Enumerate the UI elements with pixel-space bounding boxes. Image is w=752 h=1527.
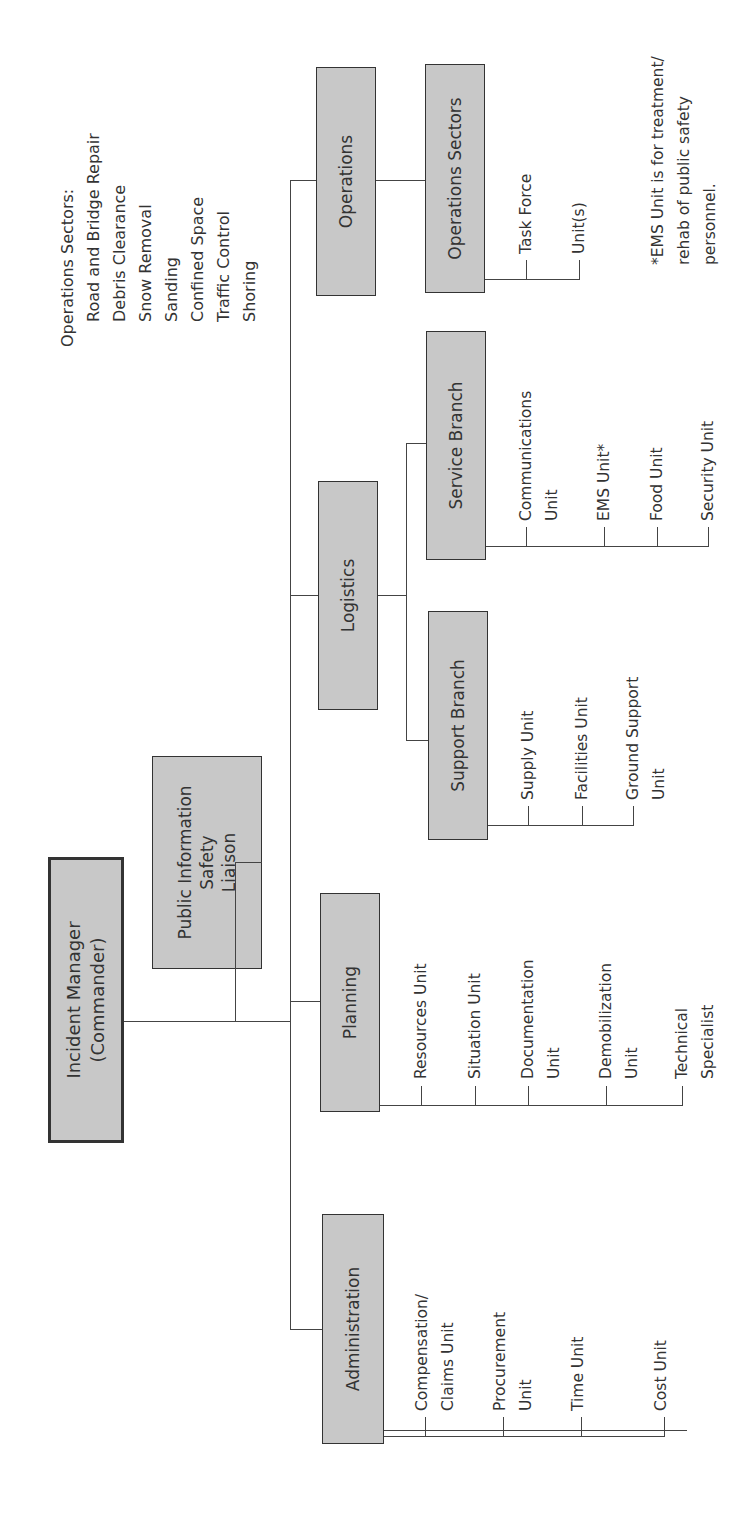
unit-tick [581, 1417, 582, 1437]
unit-tick [664, 1417, 665, 1437]
unit-tick [579, 260, 580, 280]
unit-tick [604, 527, 605, 547]
planning-unit: Resources Unit [408, 963, 434, 1079]
unit-tick [425, 1417, 426, 1437]
admin-unit: Cost Unit [648, 1340, 674, 1411]
unit-tick [526, 260, 527, 280]
service-unit: EMS Unit* [591, 444, 617, 521]
ops-unit: Task Force [513, 174, 539, 254]
unit-tick [582, 806, 583, 826]
admin-unit: Time Unit [565, 1337, 591, 1411]
unit-tick [606, 1086, 607, 1106]
unit-tick [708, 527, 709, 547]
admin-unit: Procurement Unit [487, 1312, 539, 1411]
planning-units-bus [380, 1105, 683, 1106]
admin-unit: Compensation/ Claims Unit [409, 1294, 461, 1411]
ops-units-bus [485, 279, 579, 280]
unit-tick [682, 1086, 683, 1106]
service-units-bus [486, 546, 708, 547]
unit-tick [528, 806, 529, 826]
unit-tick [475, 1086, 476, 1106]
ems-footnote: *EMS Unit is for treatment/ rehab of pub… [645, 56, 723, 265]
support-unit: Facilities Unit [569, 697, 595, 800]
service-unit: Communications Unit [513, 391, 565, 521]
unit-tick [421, 1086, 422, 1106]
planning-unit: Situation Unit [462, 973, 488, 1079]
support-units-bus [488, 825, 633, 826]
planning-unit: Demobilization Unit [593, 963, 645, 1079]
ops-unit: Unit(s) [566, 202, 592, 254]
planning-unit: Technical Specialist [669, 1005, 721, 1079]
unit-tick [503, 1417, 504, 1437]
support-unit: Ground Support Unit [620, 677, 672, 800]
unit-tick [528, 1086, 529, 1106]
unit-tick [657, 527, 658, 547]
service-unit: Food Unit [644, 447, 670, 521]
unit-rakes-layer: Compensation/ Claims Unit Procurement Un… [0, 0, 752, 1527]
service-unit: Security Unit [695, 421, 721, 521]
unit-tick [633, 806, 634, 826]
support-unit: Supply Unit [515, 711, 541, 800]
unit-tick [526, 527, 527, 547]
planning-unit: Documentation Unit [515, 960, 567, 1080]
